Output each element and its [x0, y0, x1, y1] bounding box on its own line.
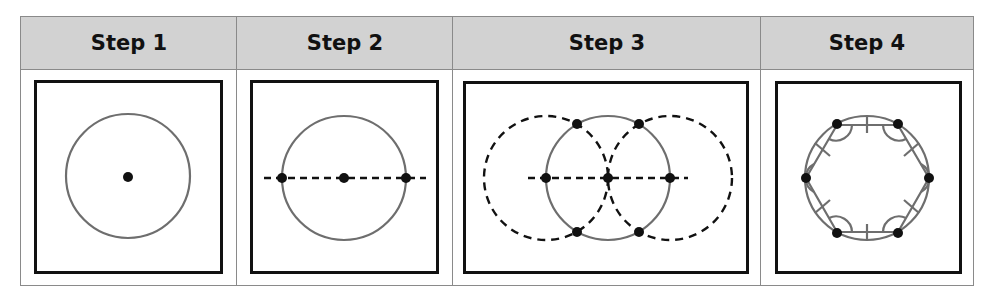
inscribed-hexagon	[806, 125, 929, 232]
circle-shape	[805, 116, 929, 240]
vertex-point	[924, 173, 934, 183]
vertex-point	[893, 119, 903, 129]
point	[541, 173, 551, 183]
endpoint-right	[401, 173, 411, 183]
endpoint-left	[277, 173, 287, 183]
step-4-figure	[801, 116, 934, 240]
vertex-point	[801, 173, 811, 183]
construction-figures	[0, 0, 992, 301]
intersection-point	[572, 227, 582, 237]
congruence-tick	[815, 143, 830, 156]
intersection-point	[634, 119, 644, 129]
vertex-point	[832, 228, 842, 238]
step-3-figure	[484, 116, 732, 240]
center-point	[603, 173, 613, 183]
vertex-point	[893, 228, 903, 238]
vertex-point	[832, 119, 842, 129]
center-point	[123, 172, 133, 182]
step-2-figure	[264, 116, 426, 240]
congruence-tick	[904, 200, 919, 213]
congruence-tick	[815, 200, 830, 213]
intersection-point	[572, 119, 582, 129]
intersection-point	[634, 227, 644, 237]
step-1-figure	[66, 114, 190, 238]
congruence-tick	[904, 143, 919, 156]
center-point	[339, 173, 349, 183]
point	[665, 173, 675, 183]
